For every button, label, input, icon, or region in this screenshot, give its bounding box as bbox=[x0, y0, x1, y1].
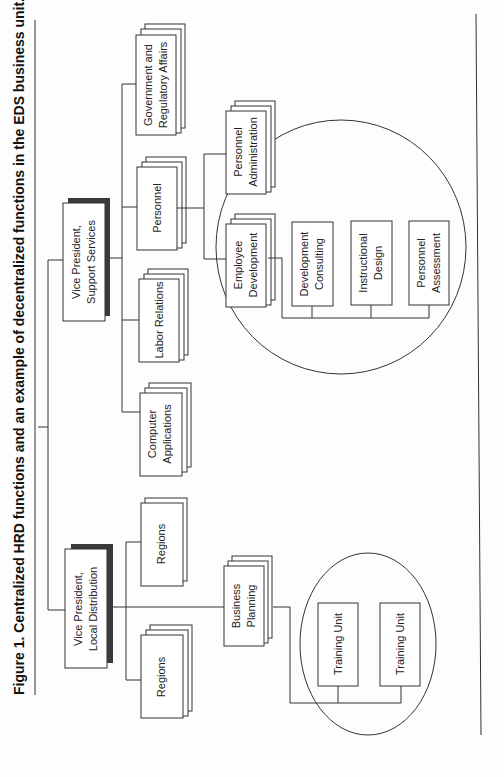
vp-local-label-2: Local Distribution bbox=[87, 567, 99, 651]
org-chart-figure: Figure 1. Centralized HRD functions and … bbox=[0, 0, 504, 777]
vp-support-services-box[interactable]: Vice President, Support Services bbox=[63, 198, 110, 321]
labor-relations-label: Labor Relations bbox=[153, 281, 165, 359]
labor-relations-box[interactable]: Labor Relations bbox=[139, 269, 188, 362]
vp-support-label-1: Vice President, bbox=[70, 225, 82, 299]
personnel-assessment-label-1: Personnel bbox=[415, 238, 427, 288]
employee-dev-label-1: Employee bbox=[232, 241, 244, 290]
business-planning-label-2: Planning bbox=[245, 585, 257, 628]
dev-consulting-label-2: Consulting bbox=[313, 238, 325, 290]
employee-development-box[interactable]: Employee Development bbox=[226, 214, 275, 307]
personnel-assessment-box[interactable]: Personnel Assessment bbox=[409, 221, 449, 305]
business-planning-label-1: Business bbox=[230, 583, 242, 628]
gov-affairs-label-2: Regulatory Affairs bbox=[157, 41, 169, 128]
instructional-design-label-2: Design bbox=[372, 246, 384, 280]
personnel-administration-box[interactable]: Personnel Administration bbox=[226, 101, 275, 194]
personnel-label: Personnel bbox=[151, 183, 163, 233]
development-consulting-box[interactable]: Development Consulting bbox=[292, 222, 333, 306]
business-planning-box[interactable]: Business Planning bbox=[224, 556, 272, 646]
regions-1-label: Regions bbox=[155, 523, 167, 564]
computer-apps-label-2: Applications bbox=[161, 404, 173, 464]
training-unit-1-label: Training Unit bbox=[332, 613, 344, 675]
gov-affairs-label-1: Government and bbox=[142, 44, 154, 126]
training-unit-2-label: Training Unit bbox=[394, 613, 406, 675]
personnel-admin-label-1: Personnel bbox=[232, 127, 244, 177]
personnel-box[interactable]: Personnel bbox=[137, 157, 186, 250]
vp-support-label-2: Support Services bbox=[85, 220, 97, 304]
personnel-assessment-label-2: Assessment bbox=[430, 233, 442, 293]
vp-local-label-1: Vice President, bbox=[72, 572, 84, 646]
employee-dev-label-2: Development bbox=[247, 233, 259, 298]
personnel-admin-label-2: Administration bbox=[247, 117, 259, 187]
regions-2-label: Regions bbox=[155, 656, 167, 697]
computer-apps-label-1: Computer bbox=[146, 410, 158, 459]
regions-box-1[interactable]: Regions bbox=[141, 498, 187, 586]
bottom-rule bbox=[476, 14, 481, 735]
training-unit-box-1[interactable]: Training Unit bbox=[318, 603, 358, 686]
computer-applications-box[interactable]: Computer Applications bbox=[140, 383, 191, 476]
figure-title: Figure 1. Centralized HRD functions and … bbox=[11, 0, 27, 695]
gov-regulatory-affairs-box[interactable]: Government and Regulatory Affairs bbox=[136, 24, 185, 135]
dev-consulting-label-1: Development bbox=[298, 232, 310, 297]
instructional-design-label-1: Instructional bbox=[357, 233, 369, 292]
root-connector bbox=[38, 260, 65, 610]
vp-local-distribution-box[interactable]: Vice President, Local Distribution bbox=[65, 544, 113, 668]
instructional-design-box[interactable]: Instructional Design bbox=[351, 221, 392, 305]
training-unit-box-2[interactable]: Training Unit bbox=[380, 603, 420, 686]
regions-box-2[interactable]: Regions bbox=[141, 625, 192, 718]
